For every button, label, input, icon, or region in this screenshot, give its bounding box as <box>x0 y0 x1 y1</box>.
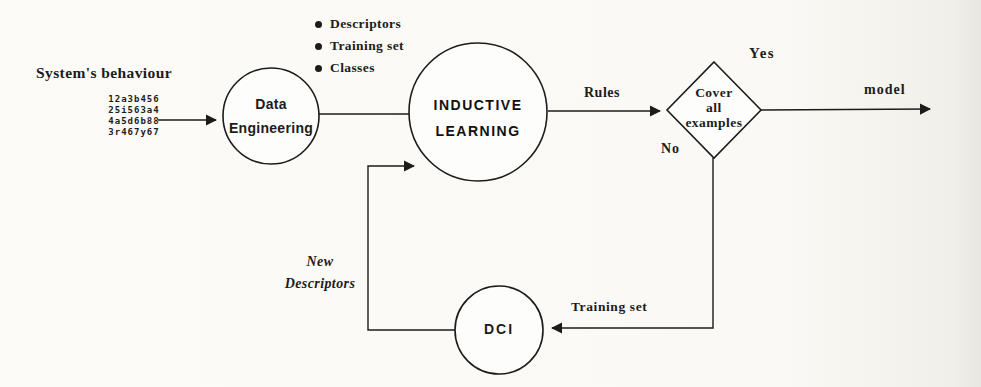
new-descriptors-edge-label: New Descriptors <box>258 251 382 295</box>
inductive-learning-label-line2: LEARNING <box>404 118 552 144</box>
raw-data-line: 12a3b456 <box>93 94 175 105</box>
bullet-item-descriptors: Descriptors <box>315 17 404 31</box>
bullet-item-classes: Classes <box>315 61 404 75</box>
raw-data-line: 3r467y67 <box>93 127 175 138</box>
bullet-icon <box>315 65 322 72</box>
bullet-icon <box>315 43 322 50</box>
yes-branch-label: Yes <box>749 45 775 62</box>
inductive-learning-label: INDUCTIVE LEARNING <box>404 92 552 144</box>
inputs-bullet-list: Descriptors Training set Classes <box>315 17 404 83</box>
decision-label-line3: examples <box>666 115 762 130</box>
training-set-edge-label: Training set <box>571 299 647 315</box>
feedback-arrow <box>368 166 455 330</box>
no-branch-label: No <box>661 141 680 157</box>
model-output-label: model <box>864 82 906 98</box>
bullet-label: Descriptors <box>330 16 401 32</box>
bullet-label: Training set <box>330 38 404 54</box>
data-engineering-label: Data Engineering <box>203 92 339 140</box>
bullet-label: Classes <box>330 60 375 76</box>
decision-label-line1: Cover <box>666 85 762 100</box>
model-arrow <box>761 109 930 110</box>
raw-data-line: 25i563a4 <box>93 105 175 116</box>
system-behaviour-label: System's behaviour <box>36 64 172 82</box>
rules-edge-label: Rules <box>584 85 620 101</box>
bullet-item-training-set: Training set <box>315 39 404 53</box>
bullet-icon <box>315 21 322 28</box>
new-descriptors-line1: New <box>258 251 382 273</box>
data-engineering-label-line1: Data <box>203 92 339 116</box>
data-engineering-label-line2: Engineering <box>203 116 339 140</box>
new-descriptors-line2: Descriptors <box>258 273 382 295</box>
inductive-learning-label-line1: INDUCTIVE <box>404 92 552 118</box>
dci-label: DCI <box>459 321 539 337</box>
flow-diagram: System's behaviour 12a3b456 25i563a4 4a5… <box>0 0 981 387</box>
raw-data-line: 4a5d6b88 <box>93 116 175 127</box>
decision-label-line2: all <box>666 100 762 115</box>
decision-label: Cover all examples <box>666 85 762 130</box>
raw-data-sample: 12a3b456 25i563a4 4a5d6b88 3r467y67 <box>93 94 175 138</box>
